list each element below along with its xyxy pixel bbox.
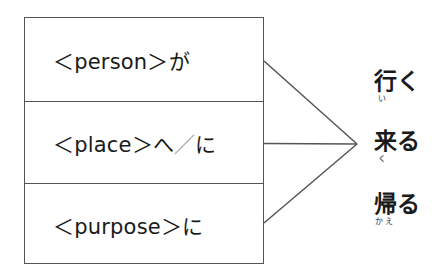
- slot-place-text: ＜place＞へ: [53, 128, 174, 158]
- verb-kaeru-word: 帰る: [374, 190, 420, 217]
- slot-purpose-text: ＜purpose＞に: [53, 210, 203, 240]
- slot-table: ＜person＞が ＜place＞へ／に ＜purpose＞に: [24, 17, 264, 264]
- verb-iku-word: 行く: [374, 67, 420, 94]
- verb-kuru: 来る く: [374, 128, 444, 163]
- verb-iku-reading: い: [374, 94, 444, 103]
- verb-kuru-reading: く: [374, 154, 444, 163]
- slot-person-text: ＜person＞が: [53, 45, 190, 75]
- slot-person: ＜person＞が: [25, 18, 263, 101]
- verb-kuru-word: 来る: [374, 127, 420, 154]
- connector-place: [264, 144, 357, 145]
- connector-purpose: [264, 144, 357, 223]
- verb-kaeru: 帰る かえ: [374, 191, 444, 226]
- slot-place-slash: ／: [174, 128, 195, 158]
- verb-iku: 行く い: [374, 68, 444, 103]
- slot-place: ＜place＞へ／に: [25, 101, 263, 183]
- slot-place-tail: に: [195, 128, 216, 158]
- verb-kaeru-reading: かえ: [374, 217, 444, 226]
- connector-person: [264, 61, 357, 144]
- slot-purpose: ＜purpose＞に: [25, 183, 263, 265]
